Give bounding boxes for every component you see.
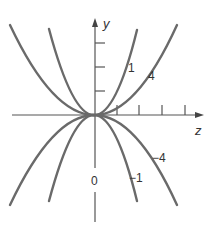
- z-axis-arrow-icon: [195, 112, 204, 118]
- curve-label-neg-4: −4: [152, 151, 166, 165]
- y-axis-label: y: [102, 16, 111, 31]
- origin-label: 0: [91, 174, 98, 188]
- curve-label-neg-1: −1: [129, 171, 143, 185]
- y-axis-arrow-icon: [92, 18, 98, 27]
- curve-label-1: 1: [128, 61, 135, 75]
- z-axis-label: z: [194, 123, 202, 138]
- parabola-family-diagram: y z 0 1 4 −4 −1: [0, 0, 214, 225]
- curve-label-4: 4: [148, 69, 155, 83]
